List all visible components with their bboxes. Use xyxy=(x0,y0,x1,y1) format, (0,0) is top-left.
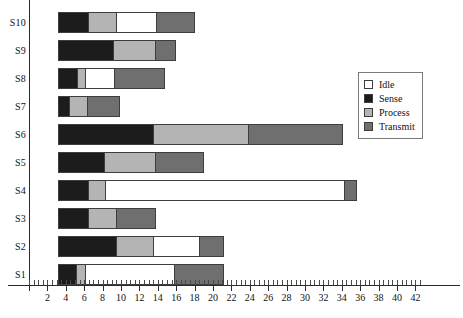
x-axis-tick-label-40: 40 xyxy=(392,292,402,303)
x-axis-minor-tick xyxy=(112,280,113,285)
bar-segment-s6-transmit xyxy=(248,124,343,145)
bar-segment-s5-process xyxy=(104,152,155,173)
legend-item-transmit[interactable]: Transmit xyxy=(364,120,415,133)
x-axis-tick-label-24: 24 xyxy=(245,292,255,303)
x-axis-minor-tick xyxy=(236,280,237,285)
x-axis-minor-tick xyxy=(254,280,255,285)
x-axis-tick xyxy=(250,285,251,291)
x-axis-minor-tick xyxy=(291,280,292,285)
x-axis-tick-label-6: 6 xyxy=(82,292,87,303)
x-axis-minor-tick xyxy=(61,280,62,285)
legend-label-transmit: Transmit xyxy=(379,122,415,132)
bar-segment-s7-process xyxy=(69,96,86,117)
x-axis-tick xyxy=(360,285,361,291)
bar-segment-s5-transmit xyxy=(155,152,205,173)
x-axis-minor-tick xyxy=(333,280,334,285)
x-axis-tick xyxy=(323,285,324,291)
bar-segment-s2-process xyxy=(116,236,153,257)
x-axis-tick xyxy=(379,285,380,291)
bar-segment-s3-transmit xyxy=(116,208,156,229)
bar-s4 xyxy=(58,180,357,201)
bar-segment-s10-sense xyxy=(58,12,88,33)
x-axis-minor-tick xyxy=(185,280,186,285)
x-axis-tick-label-14: 14 xyxy=(153,292,163,303)
bar-segment-s2-sense xyxy=(58,236,116,257)
x-axis-minor-tick xyxy=(328,280,329,285)
legend-swatch-idle-icon xyxy=(364,80,373,89)
x-axis-minor-tick xyxy=(70,280,71,285)
plot-area xyxy=(29,0,460,285)
x-axis-minor-tick xyxy=(218,280,219,285)
bar-segment-s6-sense xyxy=(58,124,153,145)
stacked-bar-chart: S1S2S3S4S5S6S7S8S9S10 246810121416182022… xyxy=(0,0,463,318)
y-axis-label-s5: S5 xyxy=(0,157,26,168)
x-axis-minor-tick xyxy=(130,280,131,285)
x-axis-minor-tick xyxy=(149,280,150,285)
bar-segment-s10-idle xyxy=(116,12,156,33)
y-axis-label-s1: S1 xyxy=(0,269,26,280)
x-axis-minor-tick xyxy=(420,280,421,285)
y-axis-label-s7: S7 xyxy=(0,101,26,112)
x-axis-minor-tick xyxy=(199,280,200,285)
x-axis-minor-tick xyxy=(172,280,173,285)
legend-item-idle[interactable]: Idle xyxy=(364,78,415,91)
x-axis-tick-label-18: 18 xyxy=(190,292,200,303)
y-axis-label-s9: S9 xyxy=(0,45,26,56)
legend-item-process[interactable]: Process xyxy=(364,106,415,119)
x-axis-minor-tick xyxy=(222,280,223,285)
bar-s7 xyxy=(58,96,120,117)
x-axis-minor-tick xyxy=(93,280,94,285)
x-axis-minor-tick xyxy=(116,280,117,285)
x-axis-minor-tick xyxy=(153,280,154,285)
bar-segment-s4-idle xyxy=(105,180,344,201)
x-axis-ticks: 24681012141618202224262830323436384042 xyxy=(0,285,463,318)
y-axis-labels: S1S2S3S4S5S6S7S8S9S10 xyxy=(0,0,26,285)
bar-s9 xyxy=(58,40,176,61)
legend-swatch-sense-icon xyxy=(364,94,373,103)
x-axis-tick xyxy=(268,285,269,291)
x-axis-tick xyxy=(342,285,343,291)
legend: Idle Sense Process Transmit xyxy=(358,72,423,139)
x-axis-minor-tick xyxy=(259,280,260,285)
x-axis-minor-tick xyxy=(337,280,338,285)
x-axis-tick xyxy=(195,285,196,291)
bar-s2 xyxy=(58,236,224,257)
x-axis-tick-label-2: 2 xyxy=(45,292,50,303)
x-axis-minor-tick xyxy=(406,280,407,285)
bar-segment-s9-process xyxy=(113,40,154,61)
bar-segment-s10-process xyxy=(88,12,116,33)
x-axis-minor-tick xyxy=(80,280,81,285)
bar-s8 xyxy=(58,68,165,89)
bar-segment-s3-process xyxy=(88,208,116,229)
x-axis-minor-tick xyxy=(365,280,366,285)
legend-item-sense[interactable]: Sense xyxy=(364,92,415,105)
x-axis-minor-tick xyxy=(34,280,35,285)
bar-s10 xyxy=(58,12,195,33)
x-axis-tick xyxy=(397,285,398,291)
bar-segment-s7-sense xyxy=(58,96,69,117)
x-axis-minor-tick xyxy=(241,280,242,285)
x-axis-tick-label-20: 20 xyxy=(208,292,218,303)
x-axis-minor-tick xyxy=(245,280,246,285)
x-axis-minor-tick xyxy=(204,280,205,285)
x-axis-tick-label-28: 28 xyxy=(282,292,292,303)
bar-segment-s4-process xyxy=(88,180,105,201)
bar-s3 xyxy=(58,208,156,229)
x-axis-minor-tick xyxy=(351,280,352,285)
x-axis-minor-tick xyxy=(314,280,315,285)
x-axis-minor-tick xyxy=(107,280,108,285)
bar-segment-s8-transmit xyxy=(114,68,165,89)
x-axis-minor-tick xyxy=(296,280,297,285)
x-axis-minor-tick xyxy=(57,280,58,285)
x-axis-minor-tick xyxy=(374,280,375,285)
bar-segment-s8-process xyxy=(77,68,84,89)
x-axis-minor-tick xyxy=(346,280,347,285)
bar-segment-s4-transmit xyxy=(344,180,357,201)
legend-label-process: Process xyxy=(379,108,410,118)
bar-segment-s2-idle xyxy=(153,236,199,257)
x-axis-minor-tick xyxy=(277,280,278,285)
bar-segment-s6-process xyxy=(153,124,249,145)
x-axis-tick-label-42: 42 xyxy=(410,292,420,303)
y-axis-label-s6: S6 xyxy=(0,129,26,140)
x-axis-tick-label-26: 26 xyxy=(263,292,273,303)
